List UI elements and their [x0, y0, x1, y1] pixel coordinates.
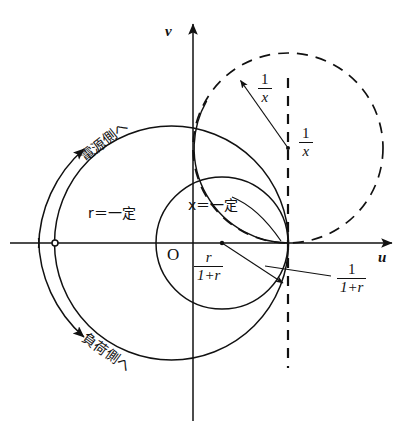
one-over-x-lower-numerator: 1: [299, 126, 313, 142]
figure-canvas: v u O 電源側へ 負荷側へ r＝一定 x＝一定 1 x 1 x r 1+r …: [0, 0, 407, 431]
r-over-one-plus-r-numerator: r: [194, 250, 223, 266]
direction-arc-to-source: [39, 149, 84, 248]
left-axis-marker: [52, 240, 58, 246]
x-constant-leader: [232, 197, 281, 241]
one-over-x-upper-fraction: 1 x: [258, 72, 272, 105]
r-over-1plusr-leader: [222, 243, 283, 283]
one-over-one-plus-r-denominator: 1+r: [337, 278, 366, 295]
one-over-one-plus-r-numerator: 1: [337, 262, 366, 278]
one-over-1plusr-leader: [265, 266, 331, 276]
one-over-x-upper-denominator: x: [258, 88, 272, 105]
one-over-one-plus-r-fraction: 1 1+r: [337, 262, 366, 295]
x-constant-arc-solid: [194, 101, 288, 243]
direction-arc-to-load: [39, 238, 84, 337]
r-over-one-plus-r-denominator: 1+r: [194, 266, 223, 283]
one-over-x-lower-denominator: x: [299, 142, 313, 159]
one-over-x-lower-fraction: 1 x: [299, 126, 313, 159]
x-circle-center-dot: [286, 146, 290, 150]
origin-label: O: [167, 246, 179, 263]
r-over-one-plus-r-fraction: r 1+r: [194, 250, 223, 283]
u-axis-label: u: [378, 250, 386, 265]
x-constant-label: x＝一定: [188, 198, 238, 212]
v-axis-label: v: [165, 24, 172, 39]
r-constant-label: r＝一定: [88, 206, 136, 220]
one-over-x-upper-numerator: 1: [258, 72, 272, 88]
diagram-svg: [0, 0, 407, 431]
